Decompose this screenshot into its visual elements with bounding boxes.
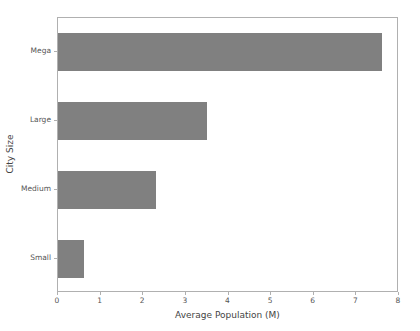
x-tick-mark-0 [57,292,58,295]
x-tick-mark-5 [270,292,271,295]
y-tick-mark-small [54,258,57,259]
x-tick-mark-8 [398,292,399,295]
x-tick-label-2: 2 [127,296,157,306]
y-tick-label-large: Large [0,115,51,125]
y-tick-mark-medium [54,189,57,190]
x-axis-title: Average Population (M) [57,309,398,321]
x-tick-label-5: 5 [255,296,285,306]
bar-medium [58,171,156,209]
bar-large [58,102,207,140]
x-tick-label-4: 4 [213,296,243,306]
bar-small [58,240,84,278]
y-tick-label-medium: Medium [0,184,51,194]
x-tick-mark-4 [228,292,229,295]
plot-area [57,17,398,292]
x-tick-label-8: 8 [383,296,413,306]
y-tick-mark-mega [54,51,57,52]
x-tick-label-7: 7 [340,296,370,306]
x-tick-label-6: 6 [298,296,328,306]
x-tick-mark-6 [313,292,314,295]
y-tick-label-mega: Mega [0,46,51,56]
y-axis-title: City Size [4,24,16,284]
x-tick-label-3: 3 [170,296,200,306]
x-tick-mark-3 [185,292,186,295]
x-tick-label-0: 0 [42,296,72,306]
bar-mega [58,33,382,71]
y-tick-mark-large [54,120,57,121]
y-tick-label-small: Small [0,253,51,263]
x-tick-label-1: 1 [85,296,115,306]
x-tick-mark-2 [142,292,143,295]
bar-chart-figure: City Size MegaLargeMediumSmall 012345678… [0,0,420,331]
bars-layer [58,18,397,291]
x-tick-mark-7 [355,292,356,295]
x-tick-mark-1 [100,292,101,295]
